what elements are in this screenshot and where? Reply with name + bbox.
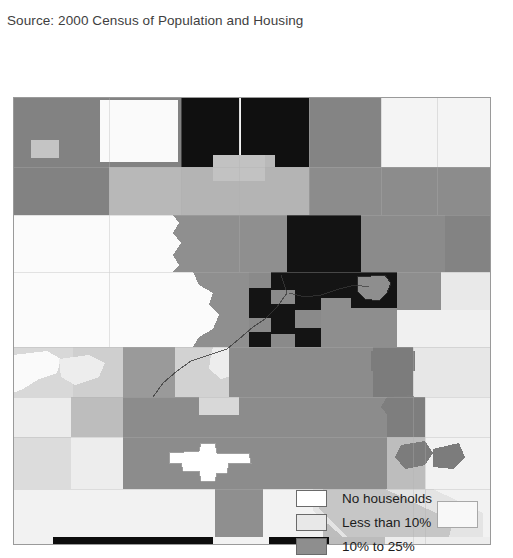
legend-swatch-less-than-10 — [296, 514, 327, 531]
source-caption: Source: 2000 Census of Population and Ho… — [7, 13, 303, 28]
legend-label-no-households: No households — [342, 492, 432, 506]
choropleth-map — [13, 97, 491, 545]
legend-label-less-than-10: Less than 10% — [342, 516, 431, 530]
map-figure — [13, 97, 491, 545]
legend-item-less-than-10: Less than 10% — [296, 511, 431, 534]
legend-swatch-no-households — [296, 490, 327, 507]
legend-item-10-to-25: 10% to 25% — [296, 535, 415, 558]
legend-swatch-10-to-25 — [296, 538, 327, 555]
map-legend: No households Less than 10% 10% to 25% — [296, 486, 513, 545]
legend-label-10-to-25: 10% to 25% — [342, 540, 415, 554]
legend-item-no-households: No households — [296, 487, 432, 510]
